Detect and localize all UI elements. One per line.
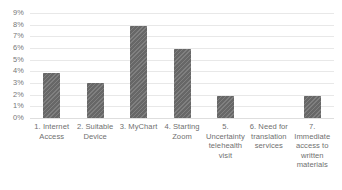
bar-chart: 9%8%7%6%5%4%3%2%1%0% 1. Internet Access2… <box>0 0 342 190</box>
gridline-0pct <box>30 118 334 119</box>
x-category-label: 2. Suitable Device <box>73 122 116 141</box>
bar <box>304 96 321 118</box>
x-category-label: 4. Starting Zoom <box>160 122 203 141</box>
bar <box>130 26 147 118</box>
y-tick-label: 9% <box>13 9 24 17</box>
x-category-label: 7. Immediate access to written materials <box>291 122 334 170</box>
bar <box>87 83 104 118</box>
bar <box>174 49 191 118</box>
y-tick-label: 5% <box>13 56 24 64</box>
y-tick-label: 1% <box>13 102 24 110</box>
x-category-label: 3. MyChart <box>117 122 160 132</box>
y-tick-label: 8% <box>13 21 24 29</box>
y-tick-label: 6% <box>13 44 24 52</box>
bars-layer <box>30 13 334 118</box>
x-axis-category-labels: 1. Internet Access2. Suitable Device3. M… <box>30 122 334 188</box>
y-tick-label: 7% <box>13 32 24 40</box>
x-category-label: 1. Internet Access <box>30 122 73 141</box>
y-tick-label: 4% <box>13 67 24 75</box>
bar <box>43 73 60 119</box>
y-tick-label: 2% <box>13 91 24 99</box>
y-axis-tick-labels: 9%8%7%6%5%4%3%2%1%0% <box>0 13 28 118</box>
x-category-label: 5. Uncertainty telehealth visit <box>204 122 247 160</box>
y-tick-label: 3% <box>13 79 24 87</box>
bar <box>217 96 234 118</box>
x-category-label: 6. Need for translation services <box>247 122 290 151</box>
y-tick-label: 0% <box>13 114 24 122</box>
